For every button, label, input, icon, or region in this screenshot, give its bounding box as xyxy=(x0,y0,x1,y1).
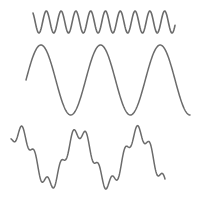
high-frequency-sine-wave xyxy=(33,11,175,33)
low-frequency-sine-wave xyxy=(26,45,190,115)
waveform-diagram xyxy=(0,0,201,212)
superposition-wave xyxy=(11,126,165,189)
